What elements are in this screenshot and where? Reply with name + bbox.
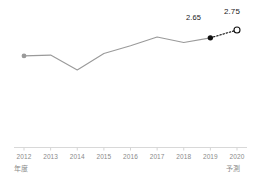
x-axis-tick-label-2013: 2013 bbox=[36, 153, 66, 160]
x-axis-tick-label-2015: 2015 bbox=[89, 153, 119, 160]
x-axis-tick-label-2019: 2019 bbox=[195, 153, 225, 160]
x-axis-tick-label-2012: 2012 bbox=[9, 153, 39, 160]
x-axis-caption: 年度 bbox=[14, 163, 28, 173]
latest-actual-point-marker bbox=[208, 35, 213, 40]
forecast-point-marker bbox=[234, 27, 240, 33]
value-label-2020: 2.75 bbox=[224, 7, 240, 16]
x-axis-tick-label-2014: 2014 bbox=[62, 153, 92, 160]
actual-series-line bbox=[24, 37, 210, 70]
line-chart: 201220132014201520162017201820192020 年度 … bbox=[0, 0, 261, 185]
x-axis-tick-label-2017: 2017 bbox=[142, 153, 172, 160]
forecast-caption: 予測 bbox=[226, 163, 240, 173]
start-point-marker bbox=[22, 53, 27, 58]
x-axis-tick-label-2018: 2018 bbox=[169, 153, 199, 160]
forecast-series-line bbox=[210, 30, 237, 38]
x-axis bbox=[14, 148, 247, 151]
x-axis-tick-label-2020: 2020 bbox=[222, 153, 252, 160]
x-axis-tick-label-2016: 2016 bbox=[116, 153, 146, 160]
value-label-2019: 2.65 bbox=[186, 13, 201, 22]
